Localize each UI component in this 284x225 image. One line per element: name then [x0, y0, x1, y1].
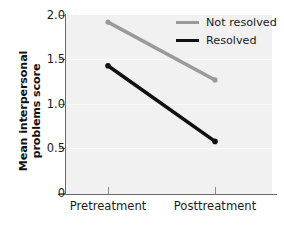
legend-swatch-not-resolved — [176, 21, 199, 25]
x-tick-label-pretreatment: Pretreatment — [48, 199, 168, 213]
x-axis-line — [58, 194, 277, 195]
gridline-0-5 — [66, 148, 272, 149]
legend-label-resolved: Resolved — [206, 34, 257, 47]
y-tick-label-0-5: 0.5 — [31, 143, 65, 155]
x-tickmark-pretreatment — [108, 187, 109, 194]
legend-item-resolved: Resolved — [176, 33, 284, 48]
y-axis-label-line-1: Mean interpersonal — [18, 51, 31, 172]
gridline-1-5 — [66, 59, 272, 60]
chart-figure: Mean interpersonal problems score 2.0 1.… — [0, 0, 284, 225]
y-tick-label-2-0: 2.0 — [31, 10, 65, 22]
legend-item-not-resolved: Not resolved — [176, 15, 284, 30]
gridline-1-0 — [66, 104, 272, 105]
x-tickmark-posttreatment — [215, 187, 216, 194]
x-tick-label-posttreatment: Posttreatment — [155, 199, 275, 213]
y-tick-label-0: 0 — [31, 188, 65, 200]
legend-swatch-resolved — [176, 39, 199, 43]
y-tick-label-1-0: 1.0 — [31, 99, 65, 111]
y-tick-label-1-5: 1.5 — [31, 54, 65, 66]
legend-label-not-resolved: Not resolved — [206, 16, 277, 29]
y-axis-label: Mean interpersonal problems score — [14, 23, 48, 199]
chart-legend: Not resolved Resolved — [176, 15, 284, 51]
